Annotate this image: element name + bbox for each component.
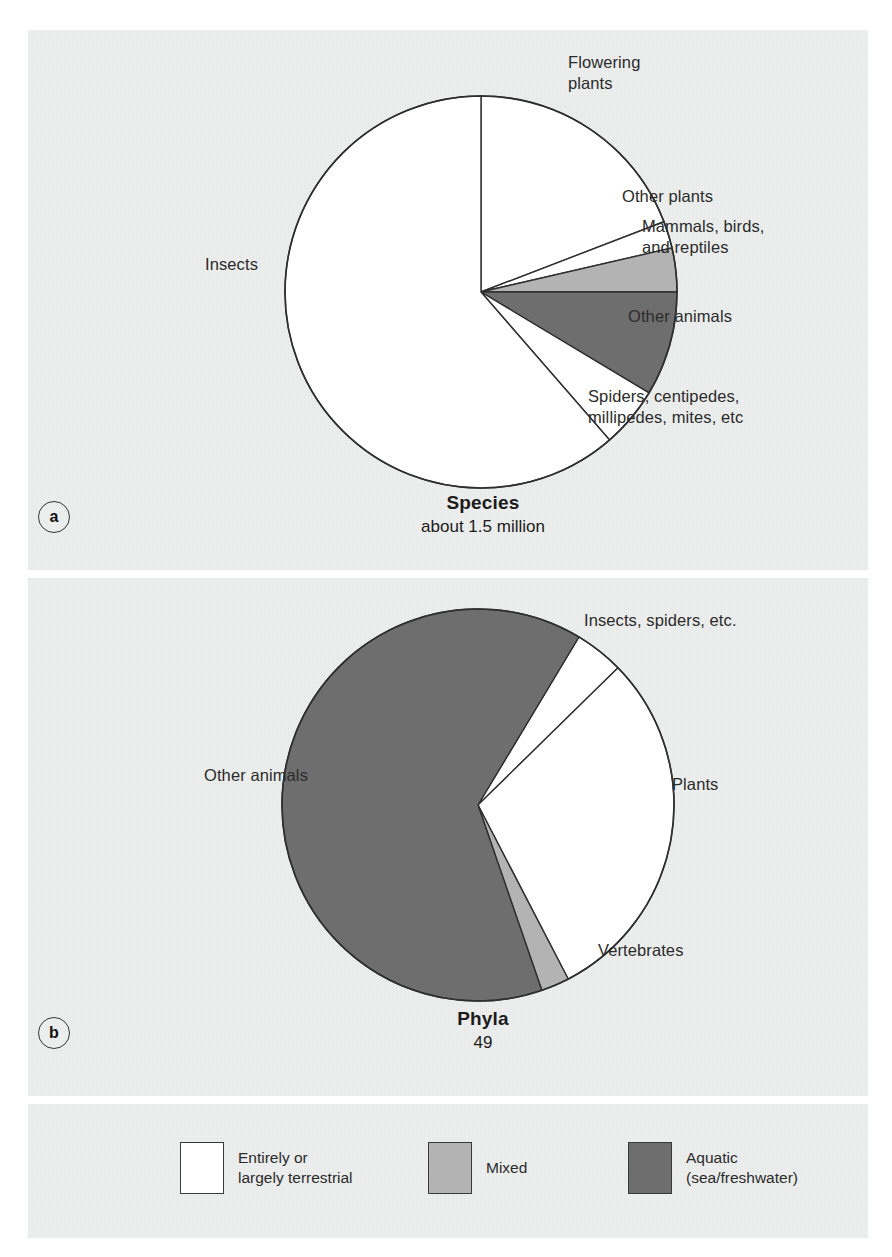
legend-label-aquatic: Aquatic (sea/freshwater) xyxy=(686,1148,798,1188)
caption-species: Species about 1.5 million xyxy=(303,492,663,537)
caption-phyla-subtitle: 49 xyxy=(303,1033,663,1053)
label-other-animals: Other animals xyxy=(628,306,828,327)
label-flowering-plants: Flowering plants xyxy=(568,52,748,94)
panel-key-b: b xyxy=(38,1017,70,1049)
label-vertebrates: Vertebrates xyxy=(598,940,798,961)
mixed-swatch xyxy=(428,1142,472,1194)
panel-legend: Entirely or largely terrestrial Mixed Aq… xyxy=(28,1104,868,1238)
legend-label-mixed: Mixed xyxy=(486,1158,527,1178)
figure-page: Insects Flowering plants Other plants Ma… xyxy=(0,0,892,1257)
label-other-animals-phyla: Other animals xyxy=(68,765,308,786)
panel-species: Insects Flowering plants Other plants Ma… xyxy=(28,30,868,570)
caption-phyla: Phyla 49 xyxy=(303,1008,663,1053)
caption-species-title: Species xyxy=(303,492,663,514)
terrestrial-swatch xyxy=(180,1142,224,1194)
legend-label-terrestrial: Entirely or largely terrestrial xyxy=(238,1148,353,1188)
panel-phyla: Other animals Insects, spiders, etc. Pla… xyxy=(28,578,868,1096)
aquatic-swatch xyxy=(628,1142,672,1194)
label-insects: Insects xyxy=(58,254,258,275)
label-plants: Plants xyxy=(672,774,832,795)
label-other-plants: Other plants xyxy=(622,186,822,207)
caption-species-subtitle: about 1.5 million xyxy=(303,517,663,537)
legend-item-terrestrial: Entirely or largely terrestrial xyxy=(180,1142,353,1194)
panel-key-a: a xyxy=(38,501,70,533)
species-pie-chart xyxy=(28,30,868,570)
label-spiders-centipedes: Spiders, centipedes, millipedes, mites, … xyxy=(588,386,848,428)
legend-item-mixed: Mixed xyxy=(428,1142,527,1194)
caption-phyla-title: Phyla xyxy=(303,1008,663,1030)
label-insects-spiders: Insects, spiders, etc. xyxy=(584,610,844,631)
legend-item-aquatic: Aquatic (sea/freshwater) xyxy=(628,1142,798,1194)
label-mammals-birds-reptiles: Mammals, birds, and reptiles xyxy=(642,216,852,258)
